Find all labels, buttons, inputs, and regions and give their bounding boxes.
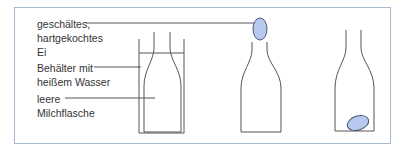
container-with-bottle: [139, 32, 184, 133]
bottle-outline: [335, 30, 374, 131]
egg-label: geschältes, hartgekochtes Ei: [37, 17, 103, 59]
bottle-egg-top: [241, 18, 281, 132]
bottle-label: leere Milchflasche: [37, 92, 95, 120]
egg-label-line3: Ei: [37, 45, 103, 59]
container-label-line2: heißem Wasser: [37, 75, 110, 89]
bottle-outline: [241, 42, 281, 132]
egg-label-line2: hartgekochtes: [37, 31, 103, 45]
bottle-egg-inside: [335, 30, 374, 133]
bottle-outline: [144, 32, 181, 132]
bottle-label-line2: Milchflasche: [37, 106, 95, 120]
egg-icon: [253, 18, 267, 40]
container-label-line1: Behälter mit: [37, 61, 110, 75]
egg-label-line1: geschältes,: [37, 17, 103, 31]
egg-icon: [345, 113, 370, 133]
container-label: Behälter mit heißem Wasser: [37, 61, 110, 89]
bottle-label-line1: leere: [37, 92, 95, 106]
